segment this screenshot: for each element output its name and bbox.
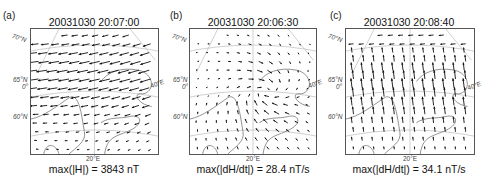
panel-footer: max(|dH/dt|) = 28.4 nT/s xyxy=(182,163,324,175)
lat-label-60: 60°N xyxy=(328,113,343,120)
lat-label-70: 70°N xyxy=(171,32,187,43)
panel-label: (a) xyxy=(3,10,15,21)
lon-label-20e: 20°E xyxy=(403,155,417,162)
quiver-map xyxy=(345,28,475,155)
panel-label: (b) xyxy=(170,10,182,21)
lat-label-60: 60°N xyxy=(13,113,28,120)
panel-a: (a) 20031030 20:07:00 70°N 65°N 0° 60°N … xyxy=(0,0,165,183)
lat-label-70: 70°N xyxy=(11,32,27,43)
vector-field-plot xyxy=(346,29,474,154)
lon-label-0: 0° xyxy=(182,83,188,90)
panel-c: (c) 20031030 20:08:40 70°N 65°N 0° 60°N … xyxy=(322,0,487,183)
lat-label-65: 65°N xyxy=(13,76,28,83)
lat-label-65: 65°N xyxy=(328,76,343,83)
lat-label-70: 70°N xyxy=(327,32,343,43)
panel-b: (b) 20031030 20:06:30 70°N 65°N 0° 60°N … xyxy=(160,0,325,183)
panel-footer: max(|H|) = 3843 nT xyxy=(30,163,158,175)
lat-label-65: 65°N xyxy=(173,76,188,83)
lat-label-60: 60°N xyxy=(173,113,188,120)
quiver-map xyxy=(30,28,159,155)
lon-label-0: 0° xyxy=(22,83,28,90)
vector-field-plot xyxy=(190,29,316,154)
panel-footer: max(|dH/dt|) = 34.1 nT/s xyxy=(338,163,480,175)
panel-label: (c) xyxy=(330,10,342,21)
lon-label-0: 0° xyxy=(336,83,342,90)
lon-label-20e: 20°E xyxy=(86,155,100,162)
panel-title: 20031030 20:07:00 xyxy=(30,16,158,28)
quiver-map xyxy=(189,28,317,155)
vector-field-plot xyxy=(31,29,158,154)
lon-label-20e: 20°E xyxy=(246,155,260,162)
panel-title: 20031030 20:06:30 xyxy=(189,16,317,28)
panel-title: 20031030 20:08:40 xyxy=(345,16,473,28)
